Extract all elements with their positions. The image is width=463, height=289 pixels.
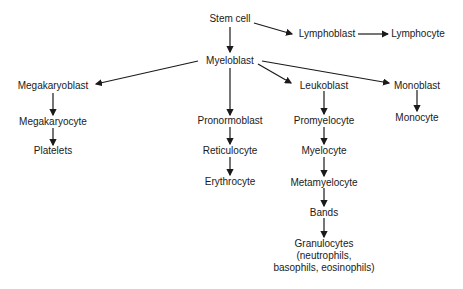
- node-promyelocyte: Promyelocyte: [294, 115, 355, 127]
- granulocytes-label: Granulocytes: [273, 238, 374, 250]
- node-megakaryocyte: Megakaryocyte: [19, 116, 87, 128]
- node-metamyelocyte: Metamyelocyte: [290, 177, 357, 189]
- granulocytes-detail-1: (neutrophils,: [273, 250, 374, 262]
- node-erythrocyte: Erythrocyte: [205, 176, 256, 188]
- node-leukoblast: Leukoblast: [300, 80, 348, 92]
- node-lymphoblast: Lymphoblast: [299, 28, 355, 40]
- node-myelocyte: Myelocyte: [301, 145, 346, 157]
- granulocytes-detail-2: basophils, eosinophils): [273, 262, 374, 274]
- node-pronormoblast: Pronormoblast: [197, 115, 262, 127]
- node-stem-cell: Stem cell: [209, 13, 250, 25]
- node-monocyte: Monocyte: [395, 112, 438, 124]
- node-granulocytes: Granulocytes (neutrophils, basophils, eo…: [273, 238, 374, 274]
- node-platelets: Platelets: [34, 145, 72, 157]
- node-myeloblast: Myeloblast: [206, 55, 254, 67]
- node-reticulocyte: Reticulocyte: [203, 145, 257, 157]
- node-bands: Bands: [310, 207, 338, 219]
- node-monoblast: Monoblast: [394, 80, 440, 92]
- node-megakaryoblast: Megakaryoblast: [18, 80, 89, 92]
- node-lymphocyte: Lymphocyte: [391, 28, 445, 40]
